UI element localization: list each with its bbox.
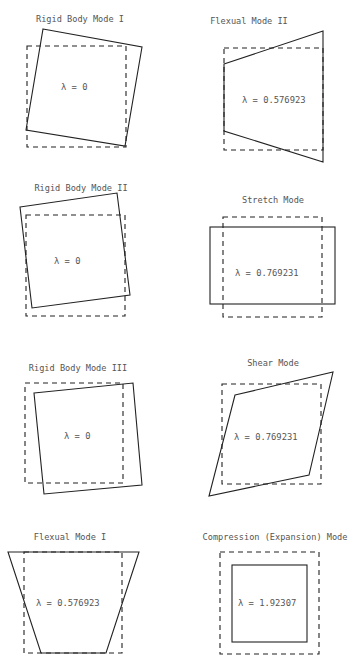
- undeformed-square: [27, 46, 126, 147]
- panel-shear-mode: Shear Mode λ = 0.769231: [209, 358, 333, 496]
- panel-rigid-body-mode-3: Rigid Body Mode III λ = 0: [25, 363, 142, 494]
- panel-title: Flexual Mode I: [34, 532, 106, 542]
- panel-rigid-body-mode-2: Rigid Body Mode II λ = 0: [20, 183, 130, 316]
- panel-title: Rigid Body Mode I: [36, 14, 124, 24]
- eigenvalue-label: λ = 0.769231: [234, 432, 298, 442]
- deformed-shape: [20, 193, 130, 308]
- panel-flexual-mode-1: Flexual Mode I λ = 0.576923: [8, 532, 139, 653]
- panel-compression-mode: Compression (Expansion) Mode λ = 1.92307: [203, 532, 348, 654]
- undeformed-square: [223, 217, 322, 317]
- eigenvalue-label: λ = 0: [54, 256, 80, 266]
- eigenvalue-label: λ = 0.576923: [36, 598, 100, 608]
- panel-stretch-mode: Stretch Mode λ = 0.769231: [210, 195, 335, 317]
- deformation-modes-diagram: Rigid Body Mode I λ = 0 Flexual Mode II …: [0, 0, 355, 666]
- panel-title: Shear Mode: [247, 358, 299, 368]
- panel-title: Rigid Body Mode II: [34, 183, 127, 193]
- panel-title: Compression (Expansion) Mode: [203, 532, 348, 542]
- eigenvalue-label: λ = 0: [61, 82, 87, 92]
- deformed-shape: [210, 227, 335, 304]
- panel-flexual-mode-2: Flexual Mode II λ = 0.576923: [210, 16, 323, 162]
- eigenvalue-label: λ = 0.769231: [235, 268, 299, 278]
- panel-title: Flexual Mode II: [210, 16, 288, 26]
- eigenvalue-label: λ = 0: [64, 431, 90, 441]
- eigenvalue-label: λ = 0.576923: [242, 95, 306, 105]
- eigenvalue-label: λ = 1.92307: [238, 598, 296, 608]
- panel-title: Rigid Body Mode III: [29, 363, 127, 373]
- panel-rigid-body-mode-1: Rigid Body Mode I λ = 0: [26, 14, 142, 147]
- panel-title: Stretch Mode: [242, 195, 304, 205]
